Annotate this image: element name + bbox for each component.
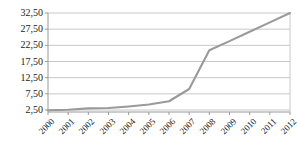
y-axis-tick-label: 17,50 xyxy=(0,57,43,67)
y-axis-tick-label: 32,50 xyxy=(0,8,43,18)
y-axis-tick-label: 2,50 xyxy=(0,105,43,115)
y-axis-tick-label: 7,50 xyxy=(0,89,43,99)
y-axis-tick-label: 22,50 xyxy=(0,40,43,50)
y-axis-tick-label: 27,50 xyxy=(0,24,43,34)
gridlines-group xyxy=(48,13,290,110)
y-axis-tick-label: 12,50 xyxy=(0,73,43,83)
axes-group xyxy=(48,13,290,112)
line-chart: 2,507,5012,5017,5022,5027,5032,50 200020… xyxy=(0,0,297,147)
